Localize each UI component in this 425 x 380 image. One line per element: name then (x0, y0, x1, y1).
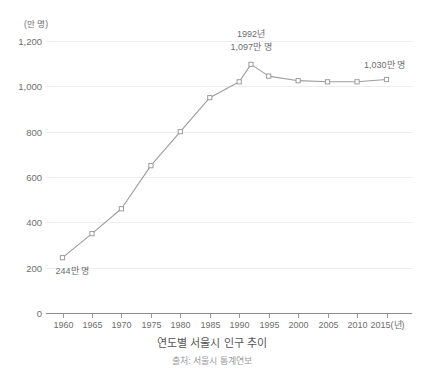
data-point-marker (149, 164, 153, 168)
chart-title: 연도별 서울시 인구 추이 (157, 337, 266, 349)
x-axis-tick-label: 1965 (82, 320, 102, 330)
x-axis-tick-label: 1995 (259, 320, 279, 330)
end-label: 1,030만 명 (364, 60, 405, 70)
chart-canvas: 02004006008001,0001,200 (만 명) 1960196519… (0, 0, 425, 380)
x-axis-tickmarks (64, 314, 388, 319)
y-axis-tick-label: 0 (37, 308, 42, 319)
y-axis-labels: 02004006008001,0001,200 (18, 36, 42, 319)
data-point-marker (249, 62, 253, 66)
x-axis-tick-label: 2000 (288, 320, 308, 330)
start-label: 244만 명 (56, 266, 90, 276)
x-axis-tick-label: 1985 (200, 320, 220, 330)
data-point-markers (60, 62, 388, 260)
data-point-marker (355, 80, 359, 84)
y-axis-tick-label: 600 (26, 172, 42, 183)
y-axis-unit-label: (만 명) (24, 19, 48, 29)
x-axis-tick-label: 1960 (53, 320, 73, 330)
data-point-marker (60, 256, 64, 260)
gridlines (46, 42, 412, 269)
peak-year-label: 1992년 (237, 29, 265, 39)
chart-annotations: 244만 명1992년1,097만 명1,030만 명 (56, 29, 406, 275)
data-point-marker (296, 79, 300, 83)
y-axis-tick-label: 200 (26, 263, 42, 274)
data-point-marker (208, 96, 212, 100)
data-point-marker (119, 207, 123, 211)
x-axis-tick-label: 2005 (318, 320, 338, 330)
data-point-marker (267, 74, 271, 78)
x-axis-tick-label: 2015(년) (370, 320, 404, 330)
y-axis-tick-label: 1,000 (18, 81, 42, 92)
x-axis-tick-label: 1980 (170, 320, 190, 330)
x-axis-tick-label: 1970 (111, 320, 131, 330)
population-line-chart: 02004006008001,0001,200 (만 명) 1960196519… (0, 0, 425, 380)
x-axis-labels: 1960196519701975198019851990199520002005… (53, 320, 404, 330)
data-point-marker (90, 232, 94, 236)
data-point-marker (237, 80, 241, 84)
peak-value-label: 1,097만 명 (230, 42, 271, 52)
population-series-line (63, 64, 387, 257)
x-axis-tick-label: 2010 (347, 320, 367, 330)
y-axis-tick-label: 800 (26, 127, 42, 138)
y-axis-tick-label: 400 (26, 217, 42, 228)
data-point-marker (178, 130, 182, 134)
y-axis-tick-label: 1,200 (18, 36, 42, 47)
x-axis-tick-label: 1975 (141, 320, 161, 330)
data-point-marker (384, 77, 388, 81)
chart-source: 출처: 서울시 통계연보 (172, 355, 252, 366)
x-axis-tick-label: 1990 (229, 320, 249, 330)
data-point-marker (325, 80, 329, 84)
